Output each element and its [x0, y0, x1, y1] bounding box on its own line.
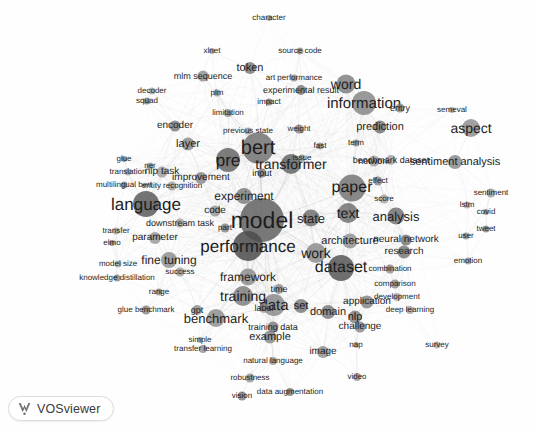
network-node[interactable]	[388, 208, 405, 225]
network-node[interactable]	[487, 189, 496, 198]
network-node[interactable]	[192, 305, 202, 315]
network-node[interactable]	[398, 246, 411, 259]
network-node[interactable]	[391, 280, 400, 289]
network-node[interactable]	[168, 182, 177, 191]
network-node[interactable]	[233, 231, 263, 261]
network-node[interactable]	[156, 289, 163, 296]
network-node[interactable]	[246, 374, 255, 383]
network-node[interactable]	[321, 305, 335, 319]
network-node[interactable]	[157, 167, 168, 178]
network-node[interactable]	[142, 306, 151, 315]
network-node[interactable]	[449, 107, 455, 113]
network-node[interactable]	[149, 232, 161, 244]
network-node[interactable]	[221, 224, 230, 233]
network-node[interactable]	[337, 75, 356, 94]
vosviewer-logo-text: VOSviewer	[37, 402, 100, 416]
network-node[interactable]	[361, 296, 374, 309]
network-node[interactable]	[197, 337, 203, 343]
network-node[interactable]	[161, 252, 177, 268]
network-node[interactable]	[401, 235, 412, 246]
network-node[interactable]	[224, 109, 232, 117]
network-node[interactable]	[244, 62, 256, 74]
network-node[interactable]	[114, 275, 121, 282]
network-node[interactable]	[214, 90, 221, 97]
network-node[interactable]	[463, 233, 470, 240]
network-node[interactable]	[113, 228, 120, 235]
network-node[interactable]	[121, 182, 128, 189]
network-visualization-canvas[interactable]: modelbertprelanguageperformancedatasetpa…	[0, 0, 533, 433]
network-node[interactable]	[125, 169, 132, 176]
network-node[interactable]	[274, 284, 284, 294]
network-node[interactable]	[328, 255, 354, 281]
network-node[interactable]	[317, 346, 329, 358]
network-node[interactable]	[243, 133, 274, 164]
network-node[interactable]	[386, 265, 395, 274]
network-node[interactable]	[115, 261, 122, 268]
network-node[interactable]	[121, 156, 127, 162]
network-node[interactable]	[182, 138, 195, 151]
network-node[interactable]	[269, 357, 277, 365]
network-node[interactable]	[291, 75, 298, 82]
node-layer: modelbertprelanguageperformancedatasetpa…	[0, 0, 533, 433]
network-node[interactable]	[294, 299, 308, 313]
network-node[interactable]	[295, 125, 304, 134]
network-node[interactable]	[406, 306, 414, 314]
network-node[interactable]	[299, 155, 306, 162]
network-node[interactable]	[176, 268, 185, 277]
network-node[interactable]	[386, 155, 396, 165]
network-node[interactable]	[303, 210, 320, 227]
network-node[interactable]	[233, 286, 253, 306]
network-node[interactable]	[396, 104, 405, 113]
network-node[interactable]	[268, 322, 279, 333]
network-node[interactable]	[306, 243, 326, 263]
network-node[interactable]	[149, 88, 156, 95]
network-node[interactable]	[352, 91, 376, 115]
network-node[interactable]	[144, 98, 151, 105]
network-node[interactable]	[296, 85, 306, 95]
network-node[interactable]	[355, 322, 366, 333]
network-node[interactable]	[195, 172, 207, 184]
network-node[interactable]	[238, 392, 247, 401]
network-node[interactable]	[434, 342, 441, 349]
network-node[interactable]	[259, 303, 269, 313]
network-node[interactable]	[209, 48, 215, 54]
network-node[interactable]	[266, 99, 273, 106]
network-node[interactable]	[369, 156, 380, 167]
network-node[interactable]	[170, 121, 181, 132]
network-node[interactable]	[353, 140, 360, 147]
network-node[interactable]	[199, 345, 207, 353]
network-node[interactable]	[207, 309, 225, 327]
network-node[interactable]	[464, 202, 471, 209]
network-node[interactable]	[216, 148, 240, 172]
network-node[interactable]	[393, 293, 401, 301]
network-node[interactable]	[483, 209, 489, 215]
network-node[interactable]	[380, 195, 389, 204]
network-node[interactable]	[133, 191, 159, 217]
network-node[interactable]	[343, 234, 358, 249]
network-node[interactable]	[339, 175, 366, 202]
network-node[interactable]	[374, 177, 383, 186]
network-node[interactable]	[109, 240, 115, 246]
network-node[interactable]	[374, 121, 387, 134]
network-node[interactable]	[465, 258, 472, 265]
vosviewer-logo-badge[interactable]: VOSviewer	[8, 396, 114, 421]
network-node[interactable]	[353, 342, 359, 348]
network-node[interactable]	[147, 163, 154, 170]
network-node[interactable]	[176, 219, 185, 228]
network-node[interactable]	[297, 48, 304, 55]
network-node[interactable]	[317, 143, 324, 150]
network-node[interactable]	[483, 226, 490, 233]
network-node[interactable]	[462, 119, 480, 137]
network-node[interactable]	[353, 373, 361, 381]
network-node[interactable]	[245, 128, 252, 135]
network-node[interactable]	[338, 203, 358, 223]
network-node[interactable]	[448, 155, 462, 169]
network-node[interactable]	[286, 388, 294, 396]
network-node[interactable]	[198, 71, 209, 82]
network-node[interactable]	[258, 169, 267, 178]
network-node[interactable]	[210, 206, 221, 217]
network-node[interactable]	[236, 188, 252, 204]
network-node[interactable]	[266, 15, 272, 21]
network-node[interactable]	[264, 331, 277, 344]
network-node[interactable]	[240, 269, 257, 286]
